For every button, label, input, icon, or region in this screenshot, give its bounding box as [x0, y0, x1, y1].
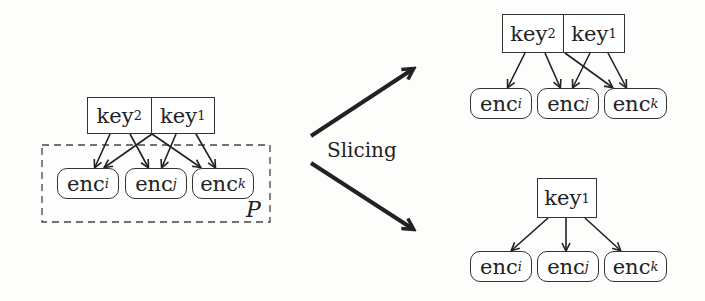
slicing-arrow-up — [311, 69, 413, 136]
partition-label: P — [246, 197, 261, 222]
enc-node: enck — [604, 251, 667, 282]
enc-node: enck — [604, 88, 667, 119]
key-node: key1 — [563, 15, 624, 52]
slicing-arrow-down — [311, 163, 413, 229]
enc-node: enci — [57, 168, 119, 199]
left-key-box: key2 key1 — [87, 97, 215, 134]
key-node: key2 — [88, 98, 151, 133]
enc-node: enci — [470, 88, 532, 119]
enc-node: encj — [537, 88, 599, 119]
key-node: key1 — [151, 98, 215, 133]
bottom-right-key-box: key1 — [537, 178, 597, 218]
enc-node: encj — [537, 251, 599, 282]
enc-node: enci — [470, 251, 532, 282]
top-right-key-box: key2 key1 — [502, 14, 625, 53]
key-node: key2 — [503, 15, 563, 52]
slicing-label: Slicing — [327, 138, 397, 162]
enc-node: encj — [125, 168, 187, 199]
enc-node: enck — [192, 168, 254, 199]
key-node: key1 — [538, 179, 596, 217]
slicing-diagram: key2 key1 enci encj enck P Slicing key2 … — [0, 0, 705, 301]
